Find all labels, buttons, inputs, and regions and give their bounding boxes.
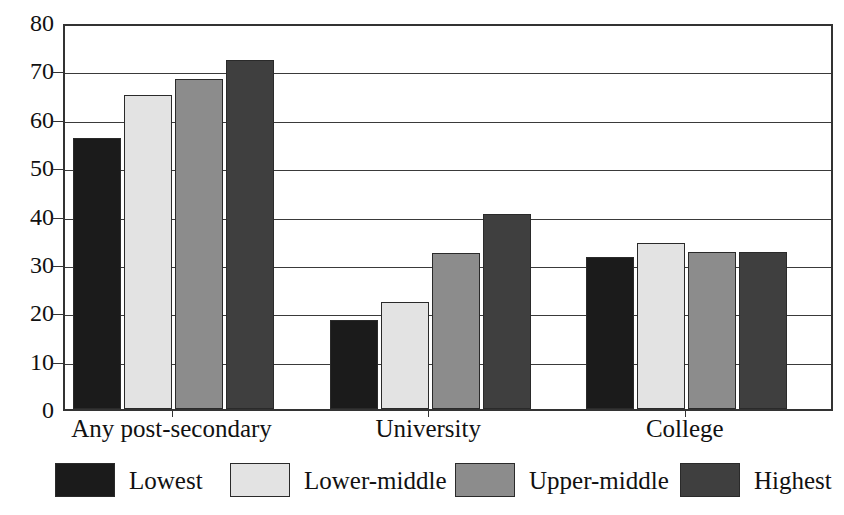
- bar-university-lowest: [330, 320, 378, 409]
- y-tick-mark-70: [53, 72, 63, 73]
- legend-swatch-lower-middle: [230, 463, 290, 497]
- bar-college-lowest: [586, 257, 634, 409]
- bar-any-post-secondary-lowest: [73, 138, 121, 409]
- y-tick-mark-30: [53, 266, 63, 267]
- gridline-70: [65, 73, 831, 74]
- chart-legend: LowestLower-middleUpper-middleHighest: [0, 462, 844, 506]
- bar-college-lower-middle: [637, 243, 685, 409]
- y-tick-label-80: 80: [2, 11, 54, 35]
- x-tick-mark-0: [172, 411, 173, 417]
- y-tick-label-50: 50: [2, 156, 54, 180]
- bar-any-post-secondary-lower-middle: [124, 95, 172, 409]
- y-tick-mark-40: [53, 218, 63, 219]
- plot-area: [63, 24, 833, 411]
- bar-university-upper-middle: [432, 253, 480, 409]
- x-axis-label-college: College: [485, 415, 844, 443]
- bar-university-highest: [483, 214, 531, 409]
- y-tick-label-40: 40: [2, 205, 54, 229]
- y-tick-label-70: 70: [2, 59, 54, 83]
- legend-label-lowest: Lowest: [129, 468, 203, 493]
- x-tick-mark-2: [685, 411, 686, 417]
- legend-item-lower-middle[interactable]: Lower-middle: [230, 462, 447, 498]
- legend-label-lower-middle: Lower-middle: [304, 468, 447, 493]
- y-tick-mark-50: [53, 169, 63, 170]
- bar-university-lower-middle: [381, 302, 429, 409]
- legend-label-highest: Highest: [754, 468, 832, 493]
- legend-swatch-highest: [680, 463, 740, 497]
- bar-any-post-secondary-upper-middle: [175, 79, 223, 409]
- bar-college-upper-middle: [688, 252, 736, 409]
- legend-swatch-lowest: [55, 463, 115, 497]
- legend-item-lowest[interactable]: Lowest: [55, 462, 203, 498]
- bar-chart: 01020304050607080 Any post-secondaryUniv…: [0, 0, 844, 455]
- x-tick-mark-1: [428, 411, 429, 417]
- y-tick-label-20: 20: [2, 301, 54, 325]
- legend-item-upper-middle[interactable]: Upper-middle: [455, 462, 669, 498]
- y-tick-mark-10: [53, 363, 63, 364]
- bar-college-highest: [739, 252, 787, 409]
- y-tick-label-60: 60: [2, 108, 54, 132]
- bar-any-post-secondary-highest: [226, 60, 274, 409]
- legend-swatch-upper-middle: [455, 463, 515, 497]
- legend-label-upper-middle: Upper-middle: [529, 468, 669, 493]
- y-tick-label-30: 30: [2, 253, 54, 277]
- y-tick-mark-20: [53, 314, 63, 315]
- y-tick-mark-60: [53, 121, 63, 122]
- legend-item-highest[interactable]: Highest: [680, 462, 832, 498]
- y-tick-label-10: 10: [2, 350, 54, 374]
